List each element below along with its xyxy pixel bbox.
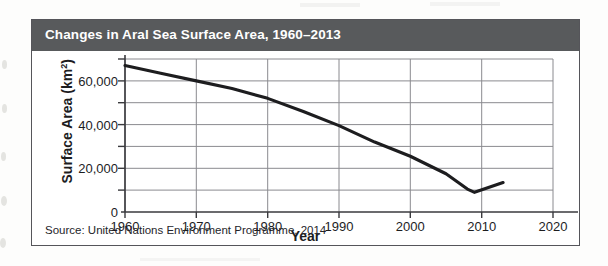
page-speck <box>140 258 260 261</box>
page-speck <box>300 3 360 7</box>
page-speck <box>430 2 500 6</box>
chart-title-bar: Changes in Aral Sea Surface Area, 1960–2… <box>32 20 579 51</box>
plot-area: 60,000 40,000 20,000 0 1960 1970 1980 19… <box>32 51 579 247</box>
chart-title: Changes in Aral Sea Surface Area, 1960–2… <box>45 27 341 42</box>
y-axis-title: Surface Area (km2) <box>59 46 76 196</box>
axis-ticks <box>118 59 553 218</box>
chart-figure: Changes in Aral Sea Surface Area, 1960–2… <box>31 19 580 246</box>
page-speck <box>2 104 7 113</box>
data-line-aral-sea <box>125 66 503 193</box>
y-axis-title-paren: ) <box>59 59 75 64</box>
page-speck <box>0 238 6 248</box>
y-axis-title-text: Surface Area (km <box>59 69 75 184</box>
y-axis-title-superscript: 2 <box>59 64 69 69</box>
y-tick-label-0: 0 <box>50 205 118 220</box>
page-speck <box>2 60 7 69</box>
page-speck <box>1 196 7 206</box>
page-speck <box>1 152 6 161</box>
grid-lines <box>125 59 553 212</box>
source-note: Source: United Nations Environment Progr… <box>45 224 326 236</box>
